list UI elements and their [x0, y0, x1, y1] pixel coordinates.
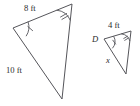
- angle-arc-single: [26, 22, 29, 37]
- small-triangle-topright-angle-mark: [121, 34, 130, 41]
- geometry-canvas: 8 ft 10 ft 4 ft D x: [0, 0, 140, 106]
- geometry-figure: 8 ft 10 ft 4 ft D x: [0, 0, 140, 106]
- label-vertex-d: D: [91, 34, 99, 44]
- label-x: x: [105, 55, 110, 65]
- label-4-ft: 4 ft: [108, 20, 120, 30]
- large-triangle-topright-angle-mark: [57, 10, 71, 20]
- small-triangle-outline: [104, 31, 131, 74]
- large-triangle-left-angle-mark: [26, 22, 33, 37]
- label-10-ft: 10 ft: [6, 65, 23, 75]
- angle-tick-1: [123, 36, 127, 39]
- small-triangle-d-angle-mark: [112, 36, 115, 48]
- label-8-ft: 8 ft: [24, 3, 36, 13]
- angle-tick-2: [124, 38, 128, 41]
- small-triangle: [104, 31, 131, 74]
- large-triangle: [13, 4, 72, 99]
